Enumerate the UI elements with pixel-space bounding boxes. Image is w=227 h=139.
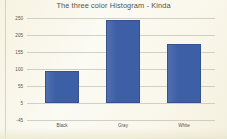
scan-shadow xyxy=(0,128,227,139)
bar-highlight xyxy=(168,45,178,102)
y-tick-label: 205 xyxy=(3,33,23,38)
gridline xyxy=(27,103,215,104)
gridline xyxy=(27,18,215,19)
chart-screenshot: The three color Histogram - Kinda 250 20… xyxy=(0,0,227,139)
chart-title: The three color Histogram - Kinda xyxy=(0,1,227,10)
y-tick-label: 5 xyxy=(3,101,23,106)
bar-gray xyxy=(106,20,140,103)
y-tick-label: 250 xyxy=(3,16,23,21)
plot-area: 250 205 155 100 55 5 -45 Black Gray xyxy=(27,18,215,120)
y-tick-label: 55 xyxy=(3,84,23,89)
bar-highlight xyxy=(46,72,56,102)
bar-white xyxy=(167,44,201,103)
y-tick-label: 155 xyxy=(3,50,23,55)
bar-highlight xyxy=(107,21,117,102)
x-tick-label-gray: Gray xyxy=(106,123,140,128)
x-tick-label-white: White xyxy=(167,123,201,128)
y-tick-label: -45 xyxy=(3,118,23,123)
bar-black xyxy=(45,71,79,103)
gridline xyxy=(27,120,215,121)
x-tick-label-black: Black xyxy=(45,123,79,128)
y-tick-label: 100 xyxy=(3,67,23,72)
